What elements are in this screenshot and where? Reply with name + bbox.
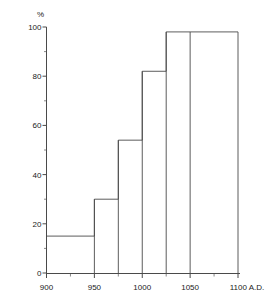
- x-axis-tick-labels: 900950100010501100 A.D.: [40, 283, 264, 292]
- y-axis-tick-labels: 020406080100: [28, 23, 42, 278]
- x-tick-label: 1050: [181, 283, 199, 292]
- y-tick-label: 40: [33, 171, 42, 180]
- y-tick-label: 100: [28, 23, 42, 32]
- histogram-chart: % 020406080100 900950100010501100 A.D.: [0, 0, 273, 306]
- y-axis-unit-label: %: [37, 10, 44, 19]
- y-axis-ticks: [43, 27, 47, 273]
- y-tick-label: 20: [33, 220, 42, 229]
- y-tick-label: 60: [33, 121, 42, 130]
- x-tick-label: 1100 A.D.: [230, 283, 265, 292]
- histogram-bin-dividers: [94, 32, 190, 273]
- y-tick-label: 80: [33, 72, 42, 81]
- percent-symbol-label: %: [37, 10, 44, 19]
- chart-canvas: % 020406080100 900950100010501100 A.D.: [0, 0, 273, 306]
- x-tick-label: 950: [88, 283, 102, 292]
- y-tick-label: 0: [37, 269, 42, 278]
- x-tick-label: 900: [40, 283, 54, 292]
- x-tick-label: 1000: [133, 283, 151, 292]
